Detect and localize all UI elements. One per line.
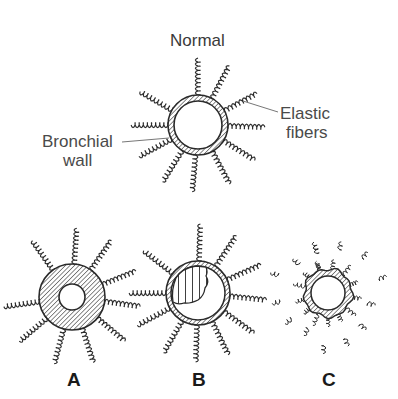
- title-normal: Normal: [170, 32, 225, 49]
- label-elastic-fibers-line2: fibers: [286, 124, 328, 141]
- leader-elastic-fibers: [243, 101, 278, 112]
- label-panel-c: C: [322, 370, 336, 389]
- bronchus-b: [166, 261, 230, 325]
- label-panel-b: B: [192, 370, 206, 389]
- label-bronchial-wall-line1: Bronchial: [42, 133, 113, 150]
- bronchus-c: [303, 268, 353, 318]
- leader-bronchial-wall: [122, 138, 169, 142]
- label-elastic-fibers-line1: Elastic: [280, 105, 330, 122]
- bronchus-normal: [168, 95, 228, 155]
- bronchial-diagram: [0, 0, 398, 399]
- label-bronchial-wall-line2: wall: [63, 152, 92, 169]
- label-panel-a: A: [67, 370, 81, 389]
- bronchus-a: [39, 264, 105, 330]
